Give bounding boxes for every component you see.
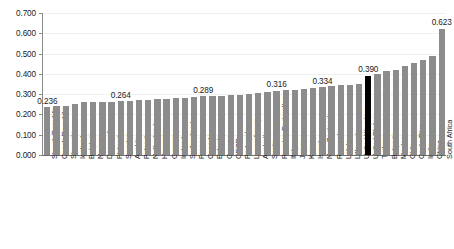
y-axis-tick-mark <box>39 33 42 34</box>
bar[interactable] <box>439 29 445 155</box>
bar[interactable] <box>338 85 344 155</box>
bar-value-label: 0.264 <box>111 91 131 100</box>
bar[interactable] <box>283 90 289 155</box>
bar[interactable] <box>173 98 179 155</box>
bar[interactable] <box>273 91 279 155</box>
bar[interactable] <box>63 106 69 155</box>
bar-value-label: 0.316 <box>267 80 287 89</box>
y-axis-tick-label: 0.700 <box>16 9 36 18</box>
y-axis-tick-label: 0.600 <box>16 29 36 38</box>
bar[interactable] <box>393 70 399 155</box>
y-axis-tick-mark <box>39 74 42 75</box>
y-axis-tick-mark <box>39 155 42 156</box>
y-axis-tick-label: 0.500 <box>16 49 36 58</box>
bar[interactable] <box>420 60 426 155</box>
bar[interactable] <box>163 99 169 155</box>
y-axis-tick-label: 0.000 <box>16 151 36 160</box>
bar[interactable] <box>228 95 234 155</box>
gridline <box>43 54 446 55</box>
y-axis-tick-mark <box>39 114 42 115</box>
bar[interactable] <box>218 96 224 155</box>
gridline <box>43 13 446 14</box>
bar-value-label: 0.289 <box>193 86 213 95</box>
y-axis-tick-label: 0.200 <box>16 110 36 119</box>
gridline <box>43 33 446 34</box>
bar-value-label: 0.334 <box>312 77 332 86</box>
y-axis-tick-label: 0.300 <box>16 90 36 99</box>
y-axis-tick-mark <box>39 135 42 136</box>
x-axis-category-label: South Africa <box>445 120 454 159</box>
bar[interactable] <box>383 71 389 155</box>
bar[interactable] <box>328 86 334 155</box>
bar[interactable] <box>53 106 59 155</box>
y-axis-tick-labels: 0.0000.1000.2000.3000.4000.5000.6000.700 <box>0 0 36 249</box>
y-axis-tick-mark <box>39 54 42 55</box>
bar-value-label: 0.623 <box>432 18 452 27</box>
bar-value-label: 0.390 <box>358 65 378 74</box>
bar[interactable] <box>118 101 124 155</box>
y-axis-tick-label: 0.100 <box>16 130 36 139</box>
y-axis-tick-mark <box>39 13 42 14</box>
bar[interactable] <box>108 102 114 155</box>
bar-value-label: 0.236 <box>37 97 57 106</box>
y-axis-tick-mark <box>39 94 42 95</box>
y-axis-tick-label: 0.400 <box>16 69 36 78</box>
